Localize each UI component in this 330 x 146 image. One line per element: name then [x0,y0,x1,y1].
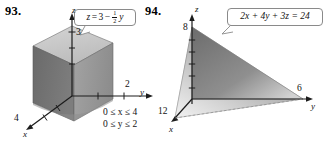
tick-label-z-93: 3 [76,27,81,37]
z-axis-arrow [189,14,194,21]
problem-number-94: 94. [145,4,161,19]
problem-number-93: 93. [5,4,21,19]
constraint-x: 0 ≤ x ≤ 4 [103,106,137,118]
equation-callout-93: z = 3 − 1 2 y [74,9,136,26]
tick-label-y-93: 2 [125,79,130,89]
equation-93-relation: = [92,13,97,23]
y-axis-arrow [146,93,153,98]
axis-label-z-94: z [195,4,199,14]
axis-label-x-94: x [169,124,173,134]
equation-93-lhs: z [87,13,91,23]
equation-93-fraction: 1 2 [112,10,117,24]
axis-label-x-93: x [23,129,27,139]
callout-94-leader [222,25,233,34]
tetra-right-face [192,27,303,99]
axis-label-y-94: y [311,101,315,111]
tick-label-z-94: 8 [183,22,188,32]
equation-93-variable: y [119,13,123,23]
equation-callout-94: 2x + 4y + 3z = 24 [227,8,323,26]
constraints-93: 0 ≤ x ≤ 4 0 ≤ y ≤ 2 [103,106,137,130]
axis-label-z-93: z [72,5,76,15]
constraint-y: 0 ≤ y ≤ 2 [103,118,137,130]
tick-label-y-94: 6 [297,83,302,93]
figure-93: z = 3 − 1 2 y 93. z y x 3 2 4 0 ≤ x ≤ 4 … [0,0,165,146]
equation-93-constant: 3 [99,13,104,23]
equation-94-text: 2x + 4y + 3z = 24 [240,12,309,22]
equation-93-text: z = 3 − 1 2 y [87,11,124,25]
tick-label-x-94: 12 [158,106,168,116]
fraction-denominator: 2 [112,17,117,25]
equation-93-sign: − [105,13,110,23]
tick-label-x-93: 4 [14,113,19,123]
axis-label-y-93: y [140,87,144,97]
